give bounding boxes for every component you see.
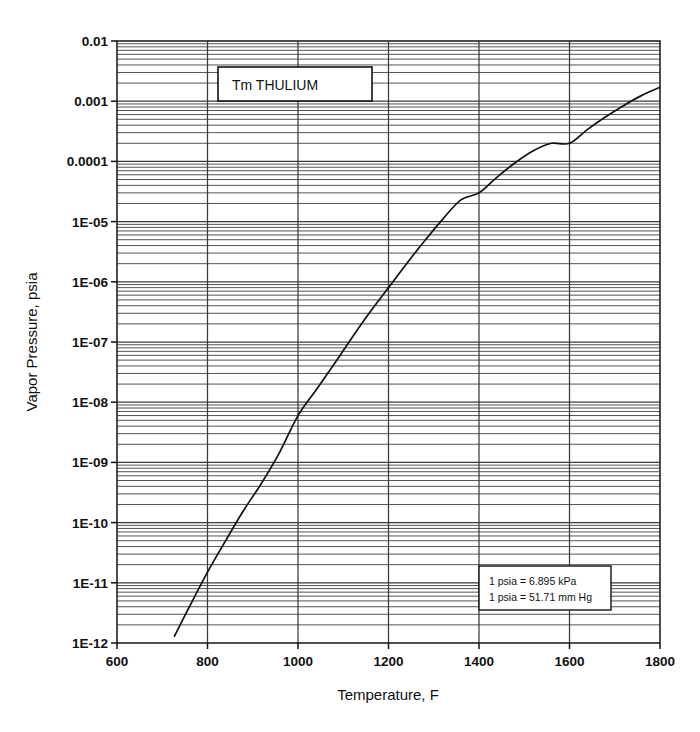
y-tick-label: 1E-11	[73, 576, 109, 591]
x-tick-label: 1200	[373, 654, 403, 669]
x-tick-label: 800	[196, 654, 219, 669]
y-tick-label: 1E-08	[72, 395, 109, 410]
y-tick-label: 0.001	[74, 94, 108, 109]
y-axis-title: Vapor Pressure, psia	[23, 272, 40, 412]
y-tick-label: 1E-12	[72, 636, 108, 651]
unit-conversion-note-line-1: 1 psia = 6.895 kPa	[489, 575, 576, 587]
x-tick-label: 1800	[645, 654, 675, 669]
y-tick-label: 1E-06	[72, 275, 109, 290]
chart-canvas: 0.010.0010.00011E-051E-061E-071E-081E-09…	[0, 0, 700, 732]
x-tick-label: 1400	[464, 654, 494, 669]
y-tick-label: 0.0001	[67, 154, 109, 169]
vapor-pressure-chart-figure: 0.010.0010.00011E-051E-061E-071E-081E-09…	[0, 0, 700, 732]
y-tick-label: 0.01	[82, 34, 109, 49]
x-tick-label: 1000	[283, 654, 313, 669]
y-tick-label: 1E-10	[72, 516, 108, 531]
x-tick-label: 1600	[554, 654, 584, 669]
unit-conversion-note-frame	[479, 566, 611, 610]
unit-conversion-note-line-2: 1 psia = 51.71 mm Hg	[489, 591, 592, 603]
element-title-box: Tm THULIUM	[218, 67, 372, 101]
x-tick-label: 600	[106, 654, 129, 669]
element-title-label: Tm THULIUM	[232, 77, 318, 93]
y-tick-label: 1E-09	[72, 455, 108, 470]
y-tick-label: 1E-05	[72, 215, 109, 230]
y-tick-label: 1E-07	[72, 335, 108, 350]
x-axis-title: Temperature, F	[337, 686, 439, 703]
unit-conversion-note-box: 1 psia = 6.895 kPa 1 psia = 51.71 mm Hg	[479, 566, 611, 610]
